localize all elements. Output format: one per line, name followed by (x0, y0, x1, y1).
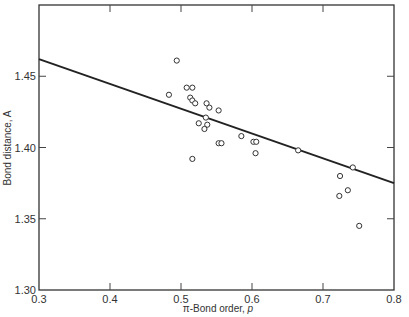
x-tick-label: 0.4 (102, 293, 117, 305)
data-point (239, 134, 244, 139)
data-point (345, 188, 350, 193)
x-tick-label: 0.8 (386, 293, 401, 305)
fit-line (39, 59, 394, 183)
data-point (196, 121, 201, 126)
data-point (296, 148, 301, 153)
x-axis-label-var: p (247, 303, 254, 314)
plot-frame (39, 5, 394, 290)
scatter-chart: 0.30.40.50.60.70.81.301.351.401.45 π-Bon… (0, 0, 409, 317)
data-point (253, 151, 258, 156)
y-tick-label: 1.30 (15, 284, 36, 296)
data-point (350, 165, 355, 170)
data-points (166, 58, 361, 228)
y-tick-label: 1.35 (15, 213, 36, 225)
data-point (254, 139, 259, 144)
data-point (219, 141, 224, 146)
y-axis-label: Bond distance, A (2, 110, 13, 185)
data-point (184, 85, 189, 90)
data-point (207, 105, 212, 110)
x-tick-label: 0.7 (315, 293, 330, 305)
axis-ticks (39, 5, 394, 290)
data-point (216, 108, 221, 113)
data-point (174, 58, 179, 63)
y-tick-label: 1.45 (15, 70, 36, 82)
x-axis-label-text: π-Bond order, (183, 303, 248, 314)
data-point (166, 92, 171, 97)
data-point (190, 85, 195, 90)
x-axis-label: π-Bond order, p (183, 303, 254, 314)
data-point (337, 173, 342, 178)
y-tick-label: 1.40 (15, 142, 36, 154)
data-point (193, 101, 198, 106)
data-point (203, 115, 208, 120)
data-point (337, 193, 342, 198)
data-point (190, 156, 195, 161)
data-point (357, 223, 362, 228)
data-point (202, 126, 207, 131)
